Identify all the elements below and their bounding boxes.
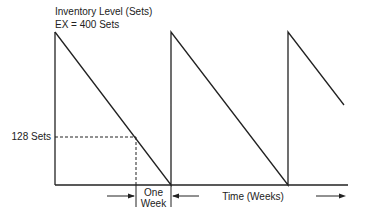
inventory-line [55,32,344,185]
chart-title: Inventory Level (Sets) [55,6,152,17]
arrow-left-head-icon [172,194,179,199]
time-arrow-head-icon [339,194,346,199]
level-label: 128 Sets [12,131,51,142]
chart-subtitle: EX = 400 Sets [55,19,119,30]
one-label: One [144,187,163,198]
x-axis-label: Time (Weeks) [222,191,284,202]
week-label: Week [141,198,167,209]
inventory-chart: Inventory Level (Sets) EX = 400 Sets 128… [0,0,365,221]
arrow-right-head-icon [128,194,135,199]
